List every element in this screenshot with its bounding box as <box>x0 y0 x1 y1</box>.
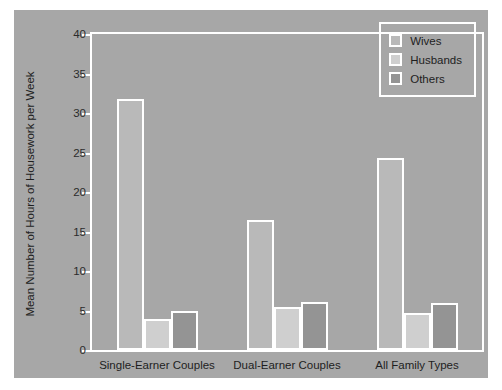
x-axis-tick-label: Dual-Earner Couples <box>233 359 340 371</box>
y-axis-tick-label: 30 <box>73 107 86 119</box>
bar-others[interactable] <box>431 303 458 350</box>
legend-label-wives: Wives <box>410 35 441 47</box>
bar-wives[interactable] <box>247 220 274 350</box>
chart-figure: Mean Number of Hours of Housework per We… <box>0 0 502 390</box>
chart-legend: Wives Husbands Others <box>379 22 476 97</box>
legend-item[interactable]: Wives <box>389 31 462 50</box>
bar-husbands[interactable] <box>404 313 431 350</box>
y-axis-title: Mean Number of Hours of Housework per We… <box>24 71 36 316</box>
legend-item[interactable]: Others <box>389 69 462 88</box>
legend-swatch-husbands-icon <box>389 53 402 66</box>
y-axis-tick-label: 25 <box>73 147 86 159</box>
bar-wives[interactable] <box>377 158 404 350</box>
bar-wives[interactable] <box>117 99 144 350</box>
x-axis-tick-label: Single-Earner Couples <box>99 359 215 371</box>
legend-item[interactable]: Husbands <box>389 50 462 69</box>
legend-swatch-others-icon <box>389 72 402 85</box>
y-axis-tick-label: 15 <box>73 226 86 238</box>
bar-husbands[interactable] <box>274 307 301 350</box>
x-axis-tick-label: All Family Types <box>375 359 459 371</box>
y-axis-tick-label: 10 <box>73 265 86 277</box>
chart-panel: Mean Number of Hours of Housework per We… <box>14 10 488 378</box>
legend-label-others: Others <box>410 73 445 85</box>
bar-others[interactable] <box>301 302 328 350</box>
y-axis-tick-label: 40 <box>73 28 86 40</box>
y-axis-tick-label: 0 <box>80 344 86 356</box>
y-axis-tick-label: 20 <box>73 186 86 198</box>
bar-husbands[interactable] <box>144 319 171 350</box>
y-axis-tick-label: 5 <box>80 305 86 317</box>
legend-label-husbands: Husbands <box>410 54 462 66</box>
legend-swatch-wives-icon <box>389 34 402 47</box>
bar-others[interactable] <box>171 311 198 351</box>
y-axis-tick-label: 35 <box>73 68 86 80</box>
